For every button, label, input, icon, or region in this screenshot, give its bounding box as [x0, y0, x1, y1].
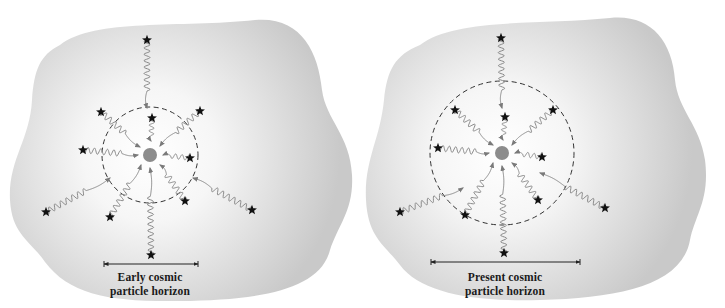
present-label-line1: Present cosmic — [435, 270, 575, 284]
early-label-line1: Early cosmic — [80, 270, 220, 284]
early-panel — [10, 20, 352, 301]
early-universe-region — [10, 20, 352, 301]
early-horizon-label: Early cosmic particle horizon — [80, 270, 220, 298]
present-universe-region — [366, 18, 706, 301]
particle-horizon-diagram — [0, 0, 725, 308]
present-panel — [366, 18, 706, 301]
early-label-line2: particle horizon — [80, 284, 220, 298]
observer-dot — [143, 148, 157, 162]
present-horizon-label: Present cosmic particle horizon — [435, 270, 575, 298]
observer-dot — [495, 146, 509, 160]
present-label-line2: particle horizon — [435, 284, 575, 298]
